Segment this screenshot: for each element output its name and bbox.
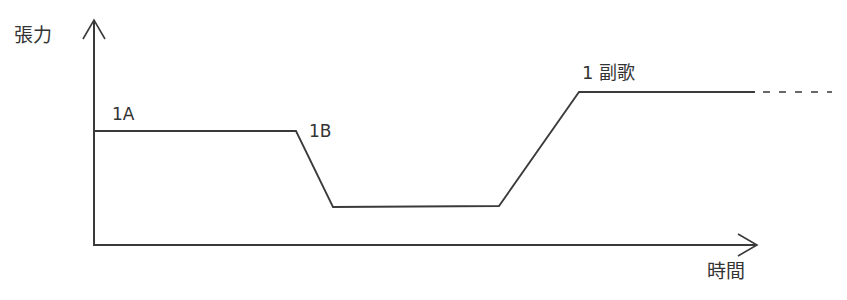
tension-curve [94,92,755,207]
segment-label-1a: 1A [112,106,134,123]
x-axis-label: 時間 [707,262,745,281]
y-axis-label: 張力 [14,26,52,45]
segment-label-1b: 1B [309,123,331,140]
segment-label-chorus: 1 副歌 [582,64,635,82]
tension-diagram [0,0,847,300]
